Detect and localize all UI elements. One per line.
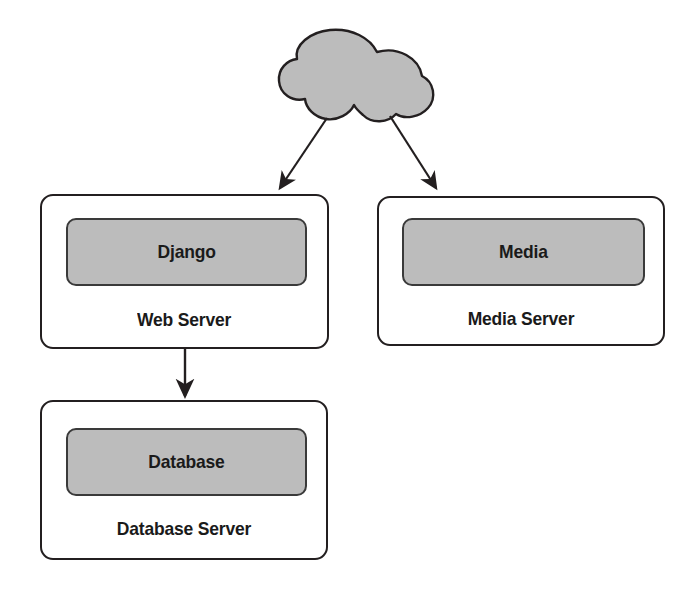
- node-database-server-component-label: Database: [148, 451, 224, 473]
- node-media-server-component-label: Media: [499, 241, 548, 263]
- node-web-server-label: Web Server: [40, 309, 329, 331]
- arrow-cloud-to-media-server: [390, 116, 436, 188]
- node-media-server-label: Media Server: [377, 308, 665, 330]
- node-database-server-label: Database Server: [40, 518, 328, 540]
- node-media-server-component[interactable]: Media: [402, 218, 645, 286]
- node-web-server-component[interactable]: Django: [66, 218, 307, 286]
- internet-cloud: [279, 30, 433, 122]
- diagram-canvas: Django Web Server Media Media Server Dat…: [0, 0, 693, 594]
- node-database-server-component[interactable]: Database: [66, 428, 307, 496]
- arrow-cloud-to-web-server: [280, 118, 327, 188]
- node-web-server-component-label: Django: [157, 241, 215, 263]
